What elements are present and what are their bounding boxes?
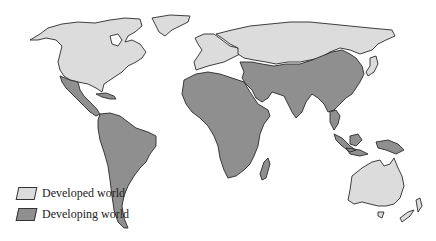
region-caribbean: [96, 93, 116, 99]
region-russia: [216, 22, 395, 64]
region-australia: [348, 158, 404, 206]
legend-swatch-developed: [16, 187, 38, 200]
legend-label-developed: Developed world: [42, 186, 125, 201]
region-north-america: [30, 18, 146, 92]
legend-swatch-developing: [16, 208, 38, 221]
legend-item-developing: Developing world: [17, 204, 129, 225]
region-indonesia: [334, 134, 368, 156]
region-new-zealand: [400, 198, 422, 222]
region-tasmania: [378, 212, 384, 218]
map-legend: Developed world Developing world: [17, 183, 129, 225]
region-southeast-asia: [330, 110, 340, 130]
region-new-guinea: [376, 140, 404, 154]
region-madagascar: [260, 158, 270, 180]
region-japan: [366, 56, 378, 76]
legend-label-developing: Developing world: [42, 207, 129, 222]
region-greenland: [152, 15, 190, 36]
legend-item-developed: Developed world: [17, 183, 129, 204]
